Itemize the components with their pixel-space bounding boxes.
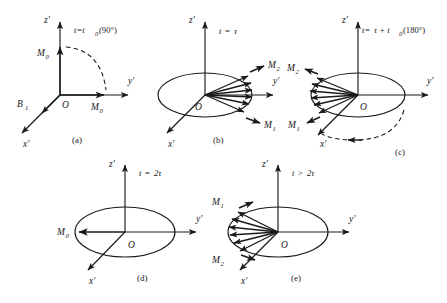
origin-label-e: O bbox=[281, 240, 288, 250]
time-label-c-mid: τ + t bbox=[374, 25, 390, 35]
axis-label-x-b: x' bbox=[167, 139, 175, 149]
axis-label-y-a: y' bbox=[127, 76, 135, 86]
origin-label-b: O bbox=[195, 102, 202, 112]
origin-label-c: O bbox=[360, 102, 367, 112]
time-label-e-t: t bbox=[292, 168, 295, 178]
axis-label-y-c: y' bbox=[426, 76, 434, 86]
time-label-b-eq: = bbox=[225, 26, 230, 36]
figure-canvas: z' y' x' O M 0 M 0 B 1 t=t 0 (90°) (a) z… bbox=[0, 0, 447, 303]
spin-echo-diagram: z' y' x' O M 0 M 0 B 1 t=t 0 (90°) (a) z… bbox=[0, 0, 447, 303]
time-label-e-gt: > bbox=[298, 168, 303, 178]
vector-b1-a bbox=[42, 95, 60, 113]
time-label-d-tau: 2τ bbox=[154, 168, 162, 178]
panel-id-d: (d) bbox=[137, 273, 148, 283]
axis-label-y-b: y' bbox=[272, 76, 280, 86]
rotation-arrow-m2-b bbox=[250, 66, 264, 72]
panel-c: z' y' x' O M 2 M 1 t= τ + t 0 (180°) (c) bbox=[286, 15, 434, 157]
panel-id-e: (e) bbox=[291, 273, 301, 283]
axis-label-x-e: x' bbox=[240, 276, 248, 286]
axis-label-y-d: y' bbox=[195, 214, 203, 224]
time-label-d-eq: = bbox=[145, 168, 150, 178]
vector-label-m2-e: M bbox=[211, 255, 221, 265]
vector-sub-m2-b: 2 bbox=[277, 65, 281, 72]
rotation-arrow-m1-c bbox=[307, 117, 320, 123]
dashed-arc-90deg-a bbox=[66, 47, 106, 90]
axis-label-z-e: z' bbox=[261, 159, 269, 169]
axis-x-c bbox=[318, 95, 358, 135]
time-label-b-t: t bbox=[219, 26, 222, 36]
vector-label-m0-y-a: M bbox=[90, 102, 100, 112]
panel-d: z' y' x' O M 0 t = 2τ (d) bbox=[56, 159, 203, 286]
rotation-arrow-m2-c bbox=[305, 69, 318, 74]
rotation-arrow-m1-e bbox=[239, 202, 253, 208]
vector-sub-m1-b: 1 bbox=[273, 125, 276, 132]
time-label-b-tau: τ bbox=[234, 26, 238, 36]
panel-id-a: (a) bbox=[72, 135, 82, 145]
vector-sub-m0-d: 0 bbox=[66, 232, 70, 239]
panel-b: z' y' x' O M 2 M 1 t = τ (b) bbox=[158, 15, 281, 149]
axis-label-z-a: z' bbox=[43, 15, 51, 25]
vector-sub-m1-c: 1 bbox=[297, 125, 300, 132]
panel-a: z' y' x' O M 0 M 0 B 1 t=t 0 (90°) (a) bbox=[17, 15, 135, 149]
panel-e: z' y' x' O M 1 M 2 t > 2τ (e) bbox=[211, 159, 356, 286]
dashed-arc-180deg-c-left bbox=[322, 134, 355, 140]
time-label-a-tail: (90°) bbox=[99, 25, 117, 35]
axis-label-x-d: x' bbox=[88, 276, 96, 286]
vector-label-m1-e: M bbox=[211, 197, 221, 207]
vector-label-m0-d: M bbox=[56, 227, 66, 237]
axis-label-z-b: z' bbox=[188, 15, 196, 25]
rotation-arrow-m1-b bbox=[246, 118, 260, 123]
vector-label-m1-b: M bbox=[263, 120, 273, 130]
time-label-d-t: t bbox=[139, 168, 142, 178]
time-label-a-head: t=t bbox=[74, 25, 85, 35]
panel-id-b: (b) bbox=[213, 135, 224, 145]
origin-label-d: O bbox=[128, 240, 135, 250]
vector-sub-m2-c: 2 bbox=[296, 68, 300, 75]
fan-vector-b-6 bbox=[205, 95, 244, 112]
axis-label-z-c: z' bbox=[341, 15, 349, 25]
time-label-e-tau: 2τ bbox=[307, 168, 315, 178]
time-label-c-tail: (180°) bbox=[403, 25, 425, 35]
vector-label-b1-a: B bbox=[17, 99, 23, 109]
vector-label-m0-z-a: M bbox=[36, 48, 46, 58]
time-label-c-head: t= bbox=[362, 25, 370, 35]
axis-label-y-e: y' bbox=[348, 214, 356, 224]
vector-label-m1-c: M bbox=[287, 120, 297, 130]
panel-id-c: (c) bbox=[395, 147, 405, 157]
axis-label-z-d: z' bbox=[108, 159, 116, 169]
vector-label-m2-b: M bbox=[267, 60, 277, 70]
vector-sub-b1-a: 1 bbox=[25, 104, 28, 111]
fan-vector-e-6 bbox=[240, 232, 278, 251]
vector-sub-m1-e: 1 bbox=[221, 202, 224, 209]
vector-sub-m0-z-a: 0 bbox=[46, 53, 50, 60]
vector-sub-m0-y-a: 0 bbox=[100, 107, 104, 114]
axis-label-x-c: x' bbox=[319, 139, 327, 149]
origin-label-a: O bbox=[62, 100, 69, 110]
axis-label-x-a: x' bbox=[22, 139, 30, 149]
vector-label-m2-c: M bbox=[286, 63, 296, 73]
axis-x-b bbox=[167, 95, 205, 133]
vector-sub-m2-e: 2 bbox=[221, 260, 225, 267]
